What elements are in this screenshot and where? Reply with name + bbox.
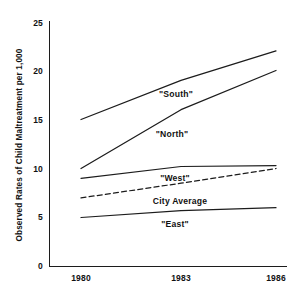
series-label-south: "South" [159, 89, 193, 99]
y-axis-title: Observed Rates of Child Maltreatment per… [15, 48, 24, 241]
y-tick-label-0: 0 [38, 261, 43, 271]
series-label-east: "East" [161, 219, 189, 229]
chart-plot-area: Observed Rates of Child Maltreatment per… [0, 0, 294, 299]
series-line-north [81, 71, 276, 169]
series-line-south [81, 51, 276, 120]
x-tick-label-1986: 1986 [266, 273, 286, 283]
axis-lines [50, 21, 288, 267]
y-tick-label-25: 25 [33, 18, 43, 28]
y-tick-label-15: 15 [33, 115, 43, 125]
series-label-west: "West" [160, 173, 190, 183]
y-tick-label-5: 5 [38, 212, 43, 222]
series-label-north: "North" [156, 129, 188, 139]
x-tick-label-1980: 1980 [71, 273, 91, 283]
series-label-city-average: City Average [153, 196, 207, 206]
x-tick-label-1983: 1983 [171, 273, 191, 283]
series-line-east [81, 208, 276, 218]
y-tick-label-20: 20 [33, 66, 43, 76]
line-chart: Observed Rates of Child Maltreatment per… [0, 0, 294, 299]
y-tick-label-10: 10 [33, 164, 43, 174]
